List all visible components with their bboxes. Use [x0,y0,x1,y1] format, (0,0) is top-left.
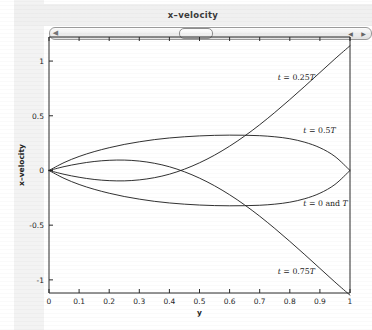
series-label-3: t = 0.75T [278,267,316,276]
x-tick-label: 0.3 [133,297,145,306]
y-axis-title: x–velocity [17,144,26,186]
top-axis-ticks [49,37,350,41]
chart-container: 00.10.20.30.40.50.60.70.80.91 10.50-0.5-… [0,0,372,330]
x-tick-label: 0.9 [314,297,326,306]
y-tick-label: 0.5 [32,112,44,121]
y-axis-tick-labels: 10.50-0.5-1 [29,57,44,285]
chart-line-series-1 [49,135,350,170]
x-axis-ticks [49,289,350,293]
chart-line-series-0 [49,46,350,181]
x-axis-title: y [197,308,202,317]
chart-svg: 00.10.20.30.40.50.60.70.80.91 10.50-0.5-… [0,0,372,330]
chart-series-group [49,46,350,295]
series-annotations: t = 0.25Tt = 0.5Tt = 0 and Tt = 0.75T [278,73,349,276]
x-tick-label: 0.2 [103,297,115,306]
series-label-0: t = 0.25T [278,73,316,82]
x-tick-label: 0 [47,297,52,306]
series-label-2: t = 0 and T [303,199,348,208]
x-tick-label: 1 [348,297,353,306]
x-tick-label: 0.4 [163,297,175,306]
x-tick-label: 0.6 [224,297,236,306]
y-tick-label: -0.5 [29,221,44,230]
x-tick-label: 0.1 [73,297,85,306]
x-tick-label: 0.5 [194,297,206,306]
y-tick-label: 0 [39,166,44,175]
series-label-1: t = 0.5T [303,126,336,135]
x-tick-label: 0.8 [284,297,296,306]
y-tick-label: 1 [39,57,44,66]
x-axis-tick-labels: 00.10.20.30.40.50.60.70.80.91 [47,297,353,306]
y-tick-label: -1 [37,276,45,285]
x-tick-label: 0.7 [254,297,266,306]
